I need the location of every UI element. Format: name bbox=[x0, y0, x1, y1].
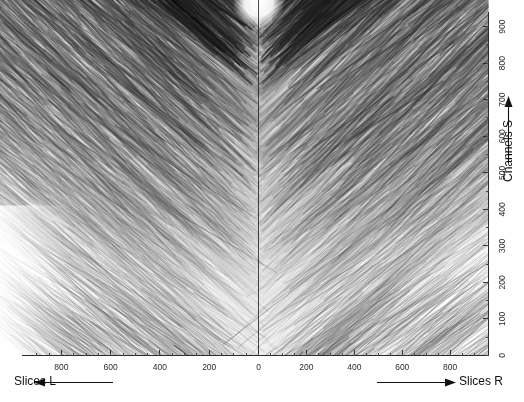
x-axis-tick-labels: 8006004002000200400600800 bbox=[54, 362, 457, 372]
figure-root: 8006004002000200400600800 01002003004005… bbox=[0, 0, 524, 402]
x-tick-label: 600 bbox=[104, 362, 118, 372]
x-axis-label-slices-right: Slices R bbox=[459, 374, 503, 388]
y-tick-label: 700 bbox=[497, 92, 507, 106]
x-tick-label: 200 bbox=[299, 362, 313, 372]
x-tick-label: 200 bbox=[202, 362, 216, 372]
y-tick-label: 200 bbox=[497, 275, 507, 289]
y-tick-label: 300 bbox=[497, 239, 507, 253]
x-tick-label: 600 bbox=[395, 362, 409, 372]
arrow-right-icon bbox=[377, 379, 456, 387]
y-tick-label: 900 bbox=[497, 19, 507, 33]
x-tick-label: 800 bbox=[443, 362, 457, 372]
x-tick-label: 400 bbox=[347, 362, 361, 372]
x-tick-label: 400 bbox=[153, 362, 167, 372]
y-tick-label: 800 bbox=[497, 56, 507, 70]
axes-overlay: 8006004002000200400600800 01002003004005… bbox=[0, 0, 524, 402]
x-tick-label: 800 bbox=[54, 362, 68, 372]
y-axis-tick-labels: 0100200300400500600700800900 bbox=[497, 19, 507, 358]
y-tick-label: 0 bbox=[497, 353, 507, 358]
x-axis-label-slices-left: Slices L bbox=[14, 374, 56, 388]
x-axis-major-ticks bbox=[61, 350, 450, 356]
y-tick-label: 400 bbox=[497, 202, 507, 216]
x-tick-label: 0 bbox=[256, 362, 261, 372]
y-tick-label: 100 bbox=[497, 312, 507, 326]
